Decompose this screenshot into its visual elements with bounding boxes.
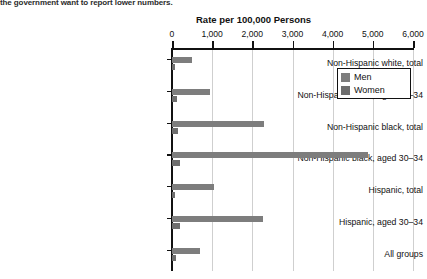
bar-men: [172, 152, 368, 158]
legend-swatch-men: [341, 73, 350, 82]
bar-chart: Rate per 100,000 Persons 01,0002,0003,00…: [0, 10, 427, 279]
x-tick-label: 2,000: [242, 29, 264, 39]
x-tick-label: 1,000: [201, 29, 223, 39]
bar-women: [172, 128, 178, 134]
gridline: [212, 48, 213, 271]
x-tick: [212, 41, 214, 48]
x-tick: [293, 41, 295, 48]
bar-men: [172, 216, 263, 222]
x-axis-line: [172, 48, 414, 50]
legend-swatch-women: [341, 86, 350, 95]
x-tick: [373, 41, 375, 48]
bar-women: [172, 255, 176, 261]
x-tick-label: 6,000: [402, 29, 424, 39]
x-tick: [413, 41, 415, 48]
legend-item-men: Men: [341, 71, 407, 84]
x-axis-title: Rate per 100,000 Persons: [196, 14, 311, 25]
x-tick: [333, 41, 335, 48]
bar-men: [172, 57, 192, 63]
chart-legend: Men Women: [337, 68, 411, 99]
bleed-text-above: the government want to report lower numb…: [0, 0, 427, 8]
category-label: All groups: [259, 249, 427, 259]
gridline: [252, 48, 253, 271]
bar-men: [172, 184, 214, 190]
bar-women: [172, 64, 175, 70]
category-label: Non-Hispanic black, total: [259, 122, 427, 132]
bar-women: [172, 96, 177, 102]
bar-men: [172, 89, 210, 95]
bar-women: [172, 160, 180, 166]
bar-men: [172, 121, 264, 127]
bar-women: [172, 192, 175, 198]
legend-label-women: Women: [354, 86, 385, 95]
x-tick-label: 4,000: [322, 29, 344, 39]
x-tick: [252, 41, 254, 48]
x-tick-label: 0: [170, 29, 175, 39]
category-label: Hispanic, total: [259, 185, 427, 195]
x-tick-label: 3,000: [282, 29, 304, 39]
legend-label-men: Men: [354, 73, 372, 82]
category-label: Non-Hispanic white, total: [259, 58, 427, 68]
bar-men: [172, 248, 200, 254]
category-label: Hispanic, aged 30–34: [259, 217, 427, 227]
bar-women: [172, 223, 180, 229]
legend-item-women: Women: [341, 84, 407, 97]
x-tick: [172, 41, 174, 48]
x-tick-label: 5,000: [362, 29, 384, 39]
